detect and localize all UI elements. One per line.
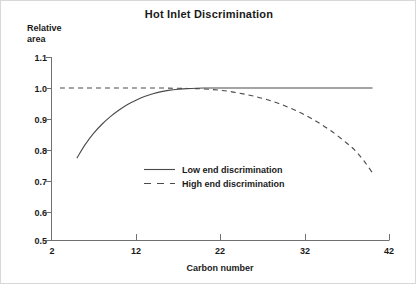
x-axis-ticks xyxy=(52,234,306,240)
y-axis-ticks xyxy=(46,58,51,241)
chart-figure: Hot Inlet Discrimination Relative area 1… xyxy=(0,0,416,284)
legend-label-low-end: Low end discrimination xyxy=(182,165,283,175)
plot-area xyxy=(1,1,416,284)
legend xyxy=(144,170,175,184)
series-high-end-discrimination xyxy=(60,88,373,173)
axes xyxy=(51,57,390,241)
legend-label-high-end: High end discrimination xyxy=(182,179,285,189)
series-low-end-discrimination xyxy=(77,88,373,158)
